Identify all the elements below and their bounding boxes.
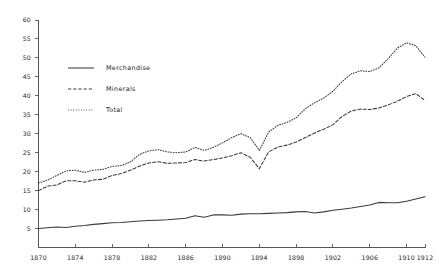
x-tick-label: 1878 <box>104 254 121 261</box>
y-tick-label: 25 <box>23 149 31 156</box>
line-chart: 51015202530354045505560 1870187418781882… <box>0 0 439 279</box>
x-tick-label: 1894 <box>251 254 268 261</box>
y-tick-label: 20 <box>23 168 31 175</box>
legend-label-minerals: Minerals <box>106 85 136 93</box>
y-tick-label: 10 <box>23 206 31 213</box>
y-tick-label: 55 <box>23 35 31 42</box>
x-tick-label: 1870 <box>30 254 47 261</box>
x-tick-label: 1874 <box>67 254 84 261</box>
y-tick-label: 15 <box>23 187 31 194</box>
y-tick-label: 35 <box>23 111 31 118</box>
x-tick-label: 1886 <box>177 254 194 261</box>
chart-container: 51015202530354045505560 1870187418781882… <box>0 0 439 279</box>
chart-legend: MerchandiseMineralsTotal <box>68 64 150 114</box>
x-tick-label: 1912 <box>417 254 434 261</box>
legend-label-total: Total <box>105 106 123 114</box>
x-tick-label: 1890 <box>214 254 231 261</box>
y-tick-label: 30 <box>23 130 31 137</box>
x-axis: 1870187418781882188618901894189819021906… <box>30 244 433 262</box>
series-line-total <box>39 43 426 183</box>
x-tick-label: 1882 <box>141 254 158 261</box>
y-tick-label: 5 <box>27 225 31 232</box>
legend-label-merchandise: Merchandise <box>106 64 150 72</box>
y-tick-label: 50 <box>23 54 31 61</box>
x-tick-label: 1898 <box>288 254 305 261</box>
x-tick-label: 1910 <box>398 254 415 261</box>
data-series-group <box>39 43 426 229</box>
x-tick-label: 1902 <box>325 254 342 261</box>
y-tick-label: 40 <box>23 92 31 99</box>
y-tick-label: 45 <box>23 73 31 80</box>
y-tick-label: 60 <box>23 16 31 23</box>
x-axis-ticks: 1870187418781882188618901894189819021906… <box>30 244 433 262</box>
series-line-merchandise <box>39 197 426 229</box>
y-axis-ticks: 51015202530354045505560 <box>23 16 39 232</box>
series-line-minerals <box>39 94 426 191</box>
x-tick-label: 1906 <box>362 254 379 261</box>
y-axis: 51015202530354045505560 <box>23 16 39 247</box>
